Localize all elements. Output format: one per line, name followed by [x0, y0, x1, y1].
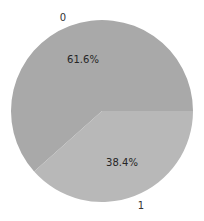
pie-chart: 0 1 61.6% 38.4%	[0, 0, 204, 221]
slice-label-0: 0	[60, 12, 66, 23]
slice-label-1: 1	[138, 200, 144, 211]
slice-percent-1: 38.4%	[106, 157, 138, 168]
slice-percent-0: 61.6%	[67, 54, 99, 65]
